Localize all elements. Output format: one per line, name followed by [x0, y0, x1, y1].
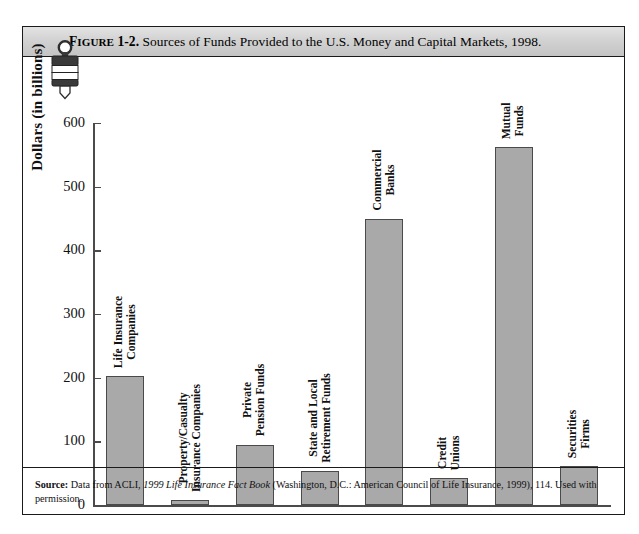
bar-category-line: Private	[242, 382, 255, 418]
bar-4	[365, 219, 403, 506]
bar-category-label: CreditUnions	[436, 435, 462, 470]
bar-category-label: Property/CasualtyInsurance Companies	[177, 384, 203, 492]
bar-category-label: State and LocalRetirement Funds	[306, 373, 332, 463]
bar-category-line: Credit	[436, 437, 449, 469]
bar-category-line: Unions	[449, 435, 462, 470]
bar-category-label: PrivatePension Funds	[242, 364, 268, 437]
bar-category-line: State and Local	[306, 380, 319, 457]
bar-category-line: Life Insurance	[113, 296, 126, 368]
bar-category-label: CommercialBanks	[371, 150, 397, 211]
bar-category-line: Banks	[384, 165, 397, 196]
bookmark-stamp-icon	[47, 39, 83, 101]
source-text-italic: 1999 Life Insurance Fact Book	[143, 479, 270, 490]
figure-container: FIGURE 1-2. Sources of Funds Provided to…	[22, 26, 625, 515]
figure-title: Sources of Funds Provided to the U.S. Mo…	[143, 34, 542, 49]
source-text-part1: Data from ACLI,	[71, 479, 141, 490]
y-tick-mark	[94, 314, 101, 315]
bar-category-line: Firms	[579, 419, 592, 449]
bar-category-label: SecuritiesFirms	[566, 409, 592, 457]
y-axis-title: Dollars (in billions)	[29, 7, 46, 207]
y-tick-label: 400	[45, 241, 85, 258]
y-tick-mark	[94, 187, 101, 188]
bar-category-label: MutualFunds	[501, 102, 527, 139]
source-divider	[23, 467, 624, 468]
figure-caption-text: FIGURE 1-2. Sources of Funds Provided to…	[69, 34, 541, 50]
source-note: Source: Data from ACLI, 1999 Life Insura…	[35, 478, 612, 506]
chart-plot-area: Dollars (in billions) 010020030040050060…	[23, 57, 624, 514]
bar-category-line: Securities	[566, 409, 579, 457]
bar-category-line: Commercial	[371, 150, 384, 211]
bar-category-line: Retirement Funds	[319, 373, 332, 463]
y-tick-mark	[94, 123, 101, 124]
bar-category-label: Life InsuranceCompanies	[113, 296, 139, 368]
y-tick-mark	[94, 250, 101, 251]
y-tick-mark	[94, 441, 101, 442]
bar-6	[495, 147, 533, 505]
bar-category-line: Property/Casualty	[177, 392, 190, 483]
y-tick-label: 200	[45, 369, 85, 386]
y-tick-label: 500	[45, 178, 85, 195]
y-tick-mark	[94, 378, 101, 379]
source-label: Source:	[35, 479, 68, 490]
figure-number: 1-2.	[117, 34, 139, 49]
bar-category-line: Companies	[126, 305, 139, 360]
y-tick-label: 300	[45, 305, 85, 322]
bar-category-line: Insurance Companies	[190, 384, 203, 492]
figure-caption-bar: FIGURE 1-2. Sources of Funds Provided to…	[23, 27, 624, 57]
y-tick-label: 600	[45, 114, 85, 131]
y-tick-label: 100	[45, 432, 85, 449]
bar-category-line: Mutual	[501, 102, 514, 139]
bar-category-line: Funds	[514, 105, 527, 136]
bar-category-line: Pension Funds	[255, 364, 268, 437]
